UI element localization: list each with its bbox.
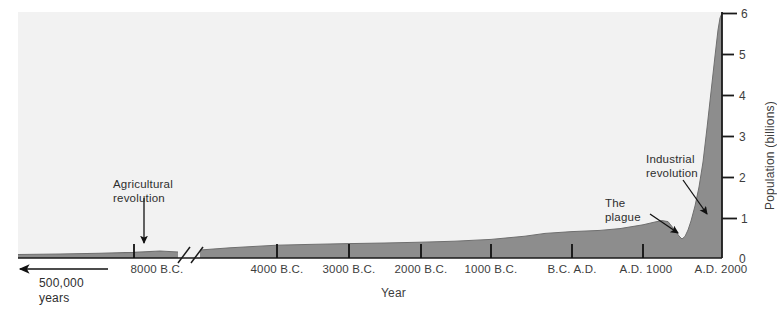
x-tick-label-4000bc: 4000 B.C. — [251, 263, 304, 275]
y-tick-label-5: 5 — [739, 48, 746, 62]
y-tick-label-6: 6 — [741, 7, 748, 21]
y-tick-label-3: 3 — [739, 130, 746, 144]
x-tick-label-8000bc: 8000 B.C. — [131, 263, 184, 275]
x-tick-label-bc-ad: B.C. A.D. — [547, 263, 596, 275]
x-tick-label-ad2000: A.D. 2000 — [695, 263, 748, 275]
x-tick-label-ad1000: A.D. 1000 — [620, 263, 673, 275]
y-tick-label-4: 4 — [739, 89, 746, 103]
annotation-industrial-revolution: Industrial revolution — [646, 153, 698, 180]
y-tick-label-2: 2 — [739, 171, 746, 185]
x-axis-title: Year — [381, 286, 406, 300]
y-tick-label-1: 1 — [741, 212, 748, 226]
x-tick-label-3000bc: 3000 B.C. — [323, 263, 376, 275]
annotation-agricultural-revolution: Agricultural revolution — [113, 178, 173, 205]
axis-break-note: 500,000 years — [39, 276, 84, 306]
y-axis-title: Population (billions) — [763, 101, 777, 210]
x-tick-label-1000bc: 1000 B.C. — [465, 263, 518, 275]
annotation-the-plague: The plague — [605, 197, 641, 224]
x-tick-label-2000bc: 2000 B.C. — [395, 263, 448, 275]
